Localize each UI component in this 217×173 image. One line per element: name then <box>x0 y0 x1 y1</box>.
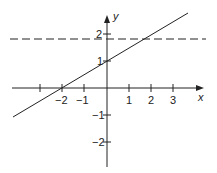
chart-canvas: −2 −1 1 2 3 2 1 −1 −2 x y <box>0 0 217 173</box>
y-axis-arrow-icon <box>104 15 110 23</box>
y-axis-label: y <box>112 10 120 22</box>
y-tick-label: −2 <box>92 136 105 148</box>
x-tick-label: −1 <box>76 94 89 106</box>
x-tick-label: 1 <box>126 94 132 106</box>
y-tick-label: 2 <box>96 28 102 40</box>
y-tick-label: −1 <box>92 109 105 121</box>
y-tick-label: 1 <box>97 55 103 67</box>
x-axis-label: x <box>197 91 204 103</box>
x-tick-label: 3 <box>170 94 176 106</box>
x-tick-label: 2 <box>148 94 154 106</box>
x-tick-label: −2 <box>55 94 68 106</box>
